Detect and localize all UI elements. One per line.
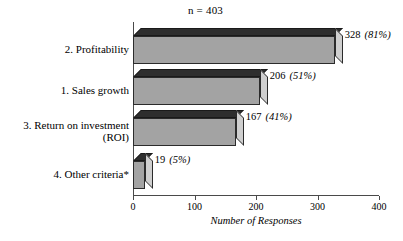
- x-tick-label: 400: [359, 201, 399, 212]
- bar-top-face: [133, 69, 268, 77]
- bar-front-face: [133, 161, 145, 189]
- value-percent: (5%): [169, 154, 190, 165]
- value-count: 167: [246, 111, 262, 122]
- bar-side-face: [335, 28, 343, 64]
- bar-side-face: [145, 153, 153, 189]
- value-label: 328(81%): [345, 29, 391, 40]
- x-tick-mark: [195, 196, 196, 200]
- value-percent: (81%): [364, 29, 390, 40]
- x-axis-title: Number of Responses: [133, 215, 379, 226]
- bar-chart: n = 403 0100200300400 2. Profitability1.…: [0, 0, 403, 241]
- x-tick-label: 0: [113, 201, 153, 212]
- x-tick-mark: [256, 196, 257, 200]
- bar-front-face: [133, 77, 260, 105]
- value-label: 19(5%): [155, 154, 191, 165]
- bar-front-face: [133, 118, 236, 146]
- x-tick-mark: [133, 196, 134, 200]
- x-tick-label: 100: [175, 201, 215, 212]
- bar-side-face: [236, 110, 244, 146]
- value-count: 19: [155, 154, 166, 165]
- value-percent: (51%): [289, 70, 315, 81]
- category-label: 1. Sales growth: [0, 84, 129, 97]
- chart-title: n = 403: [0, 4, 403, 16]
- x-tick-mark: [318, 196, 319, 200]
- x-tick-mark: [379, 196, 380, 200]
- value-label: 206(51%): [270, 70, 316, 81]
- category-label: 4. Other criteria*: [0, 168, 129, 181]
- bar-front-face: [133, 36, 335, 64]
- x-tick-label: 300: [298, 201, 338, 212]
- value-percent: (41%): [265, 111, 291, 122]
- bar-top-face: [133, 110, 244, 118]
- value-count: 206: [270, 70, 286, 81]
- value-label: 167(41%): [246, 111, 292, 122]
- x-tick-label: 200: [236, 201, 276, 212]
- bar-side-face: [260, 69, 268, 105]
- bar-top-face: [133, 28, 343, 36]
- category-label: 2. Profitability: [0, 43, 129, 56]
- category-label: 3. Return on investment (ROI): [0, 119, 129, 144]
- value-count: 328: [345, 29, 361, 40]
